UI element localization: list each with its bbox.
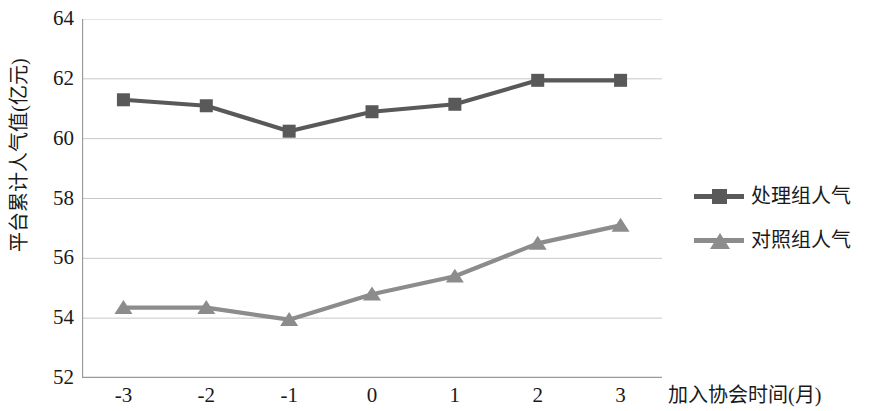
y-tick-label: 62	[30, 68, 74, 89]
square-marker-icon	[712, 189, 727, 204]
line-chart: 平台累计人气值(亿元) 64626058565452 -3-2-10123 加入…	[0, 0, 873, 411]
y-tick-label: 64	[30, 8, 74, 29]
plot-area	[82, 19, 662, 378]
y-tick-label: 52	[30, 367, 74, 388]
y-tick-label: 58	[30, 188, 74, 209]
data-point-square	[117, 93, 130, 106]
data-point-square	[531, 74, 544, 87]
x-axis-title: 加入协会时间(月)	[668, 382, 821, 408]
y-tick-label: 56	[30, 247, 74, 268]
data-point-square	[283, 125, 296, 138]
legend-label-treatment: 处理组人气	[751, 184, 851, 208]
x-tick-label: 3	[596, 383, 646, 407]
x-tick-label: 1	[430, 383, 480, 407]
y-axis-tick-labels: 64626058565452	[28, 0, 74, 411]
legend-key-control	[694, 229, 744, 251]
x-tick-label: 0	[347, 383, 397, 407]
plot-canvas	[82, 19, 662, 378]
x-tick-label: -1	[264, 383, 314, 407]
triangle-marker-icon	[710, 233, 730, 249]
x-tick-label: 2	[513, 383, 563, 407]
data-point-square	[200, 99, 213, 112]
legend-item-treatment[interactable]: 处理组人气	[694, 174, 873, 218]
x-tick-label: -3	[98, 383, 148, 407]
data-point-square	[366, 105, 379, 118]
legend-key-treatment	[694, 185, 744, 207]
series-line-control	[123, 225, 620, 319]
legend-label-control: 对照组人气	[751, 228, 851, 252]
data-point-square	[448, 98, 461, 111]
x-tick-label: -2	[181, 383, 231, 407]
y-tick-label: 54	[30, 307, 74, 328]
x-axis-tick-labels: -3-2-10123	[82, 383, 662, 409]
y-tick-label: 60	[30, 128, 74, 149]
data-point-square	[614, 74, 627, 87]
legend-item-control[interactable]: 对照组人气	[694, 218, 873, 262]
chart-legend: 处理组人气 对照组人气	[694, 174, 873, 262]
